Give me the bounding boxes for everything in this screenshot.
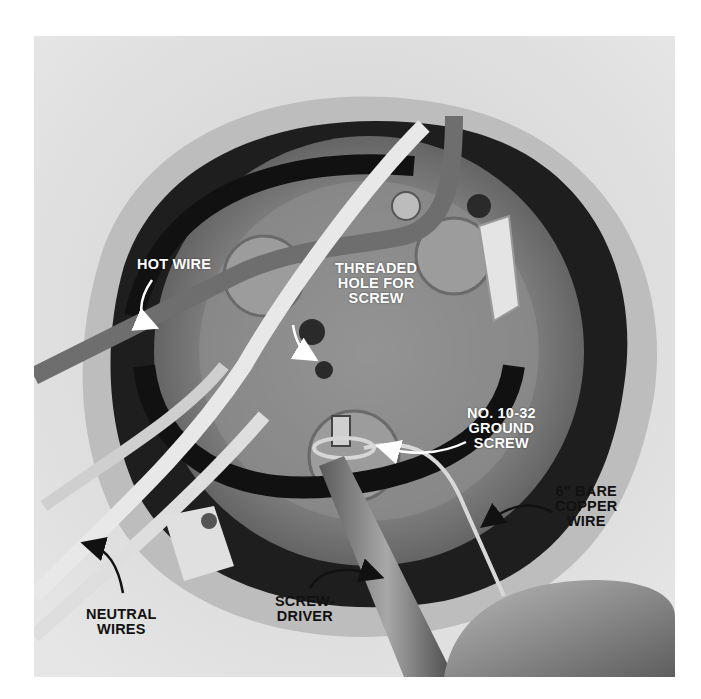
hot-wire-label: HOT WIRE bbox=[137, 257, 211, 272]
photo-scene bbox=[34, 36, 675, 677]
neutral-wires-label: NEUTRAL WIRES bbox=[86, 607, 157, 637]
ground-screw-label: NO. 10-32 GROUND SCREW bbox=[467, 406, 536, 451]
threaded-hole-label: THREADED HOLE FOR SCREW bbox=[335, 261, 417, 306]
wiring-photo bbox=[34, 36, 675, 677]
screwdriver-label: SCREW- DRIVER bbox=[275, 594, 335, 624]
copper-wire-label: 6" BARE COPPER WIRE bbox=[555, 484, 617, 529]
